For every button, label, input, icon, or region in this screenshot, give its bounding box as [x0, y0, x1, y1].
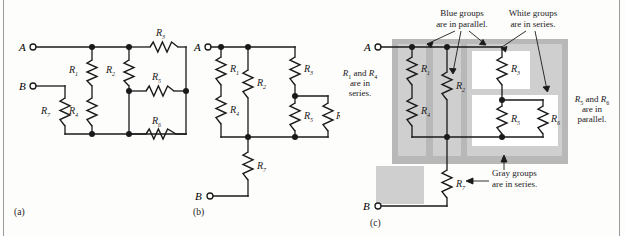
terminal-b-label-a: B: [19, 80, 26, 92]
terminal-a-label-b: A: [193, 41, 201, 53]
resistor-r4-a: [87, 98, 97, 126]
gray-groups-line2: are in series.: [492, 179, 537, 189]
blue-groups-line2: are in parallel.: [436, 19, 488, 29]
r1-sub-a: 1: [75, 71, 78, 77]
ann-and-2: and: [583, 94, 601, 104]
terminal-b-circle-a: [30, 83, 36, 89]
resistor-r5-a: [146, 86, 174, 96]
annotation-r1-r4-series: R1 and R4 are in series.: [342, 68, 378, 98]
svg-text:White groups: White groups: [509, 8, 558, 18]
svg-text:Blue groups: Blue groups: [440, 8, 484, 18]
terminal-a-circle-c: [375, 44, 381, 50]
r4-label-c: R: [420, 105, 427, 116]
r1-label-c: R: [420, 63, 427, 74]
annotation-white-groups: White groups are in series.: [509, 8, 558, 29]
svg-text:R2: R2: [256, 77, 266, 90]
r5-label-a: R: [151, 71, 158, 82]
svg-text:series.: series.: [349, 88, 372, 98]
panel-c-diagram: A B R1 R2 R3 R4 R5 R6 R7 Blue groups are…: [330, 0, 625, 236]
white-groups-line2: are in series.: [510, 19, 555, 29]
svg-text:are in series.: are in series.: [510, 19, 555, 29]
r1-label-b: R: [229, 63, 236, 74]
svg-text:are in: are in: [350, 78, 371, 88]
terminal-a-circle-a: [30, 44, 36, 50]
annotation-blue-groups: Blue groups are in parallel.: [436, 8, 488, 29]
r2-sub-c: 2: [462, 87, 465, 93]
terminal-a-circle-b: [205, 44, 211, 50]
svg-text:R6: R6: [151, 115, 161, 128]
gray-groups-line1: Gray groups: [492, 168, 537, 178]
r6-sub-c: 6: [557, 120, 560, 126]
r1-sub-b: 1: [236, 70, 239, 76]
panel-b-diagram: A B R1 R2 R3 R4 R5 R6 R7 (b): [190, 0, 340, 236]
svg-text:R3: R3: [155, 27, 165, 40]
r6-label-a: R: [151, 115, 158, 126]
resistor-r3-a: [150, 42, 178, 52]
r7-label-a: R: [40, 105, 47, 116]
r3-sub-b: 3: [309, 70, 313, 76]
r3-sub-a: 3: [161, 34, 165, 40]
r7-sub-a: 7: [47, 112, 51, 118]
blue-groups-line1: Blue groups: [440, 8, 484, 18]
ann-r5r6-line4: parallel.: [577, 114, 606, 124]
terminal-b-circle-b: [207, 193, 213, 199]
svg-text:R4: R4: [229, 104, 239, 117]
resistor-r7-b: [243, 152, 253, 180]
resistor-r7-c: [442, 170, 452, 198]
ann-r6-sub: 6: [606, 100, 609, 106]
svg-text:R7: R7: [256, 160, 267, 173]
resistor-labels-a: R1 R2 R3 R4 R5 R6 R7: [40, 27, 165, 128]
r1-label-a: R: [68, 64, 75, 75]
frame-left-rule: [3, 0, 4, 236]
r3-sub-c: 3: [516, 70, 520, 76]
svg-text:R1: R1: [68, 64, 78, 77]
r7-sub-c: 7: [462, 185, 466, 191]
r4-label-a: R: [68, 105, 75, 116]
r2-label-c: R: [455, 80, 462, 91]
terminal-b-circle-c: [375, 203, 381, 209]
svg-text:R2: R2: [105, 64, 115, 77]
r3-label-c: R: [510, 63, 517, 74]
svg-text:R7: R7: [40, 105, 51, 118]
svg-text:R7: R7: [455, 178, 466, 191]
panel-a-caption: (a): [14, 207, 25, 218]
gray-group-r7-c: [376, 166, 424, 204]
svg-text:parallel.: parallel.: [577, 114, 606, 124]
panel-c-caption: (c): [370, 218, 381, 229]
ann-r1r4-line4: series.: [349, 88, 372, 98]
r4-sub-c: 4: [427, 112, 430, 118]
r7-label-b: R: [256, 160, 263, 171]
svg-text:are in: are in: [582, 104, 603, 114]
r3-label-a: R: [155, 27, 162, 38]
resistor-r1-b: [216, 57, 226, 85]
resistor-r1-a: [87, 60, 97, 86]
r2-label-b: R: [256, 77, 263, 88]
svg-text:are in parallel.: are in parallel.: [436, 19, 488, 29]
svg-text:R5: R5: [303, 110, 313, 123]
terminal-a-label-a: A: [18, 41, 26, 53]
svg-text:R4: R4: [68, 105, 78, 118]
r5-sub-c: 5: [517, 120, 520, 126]
frame-right-rule: [619, 0, 620, 236]
white-groups-line1: White groups: [509, 8, 558, 18]
r3-label-b: R: [303, 63, 310, 74]
r5-label-b: R: [303, 110, 310, 121]
r4-sub-b: 4: [236, 111, 239, 117]
blue-group-r1r4-c: [398, 44, 426, 156]
svg-text:R3: R3: [303, 63, 313, 76]
resistor-r5-b: [290, 103, 300, 131]
ann-and-1: and: [351, 68, 369, 78]
svg-text:R5: R5: [151, 71, 161, 84]
terminal-b-label-b: B: [195, 190, 202, 202]
svg-text:Gray groups: Gray groups: [492, 168, 537, 178]
r2-label-a: R: [105, 64, 112, 75]
annotation-r5-r6-parallel: R5 and R6 are in parallel.: [574, 94, 610, 124]
r5-sub-b: 5: [310, 117, 313, 123]
r5-label-c: R: [510, 113, 517, 124]
junction-dots-b: [218, 44, 298, 140]
r5-sub-a: 5: [158, 78, 161, 84]
annotation-gray-groups: Gray groups are in series.: [492, 168, 537, 189]
ann-r1r4-line3: are in: [350, 78, 371, 88]
r7-sub-b: 7: [263, 167, 267, 173]
resistor-r2-a: [124, 60, 134, 86]
